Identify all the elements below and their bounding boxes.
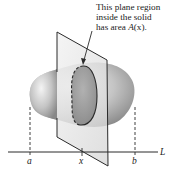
label-b: b [132, 156, 137, 166]
caption-line-3-prefix: has area [96, 22, 128, 32]
label-L: L [159, 147, 165, 157]
label-a: a [27, 156, 32, 166]
cross-section-region [72, 66, 97, 125]
solid-cross-section-diagram: This plane region inside the solid has a… [0, 0, 175, 175]
caption-line-3: has area A(x). [96, 22, 147, 32]
solid-front-portion [30, 69, 57, 120]
caption-arg: (x). [134, 22, 147, 32]
label-x: x [78, 156, 84, 166]
caption-line-1: This plane region [96, 2, 161, 12]
caption-line-2: inside the solid [96, 12, 152, 22]
